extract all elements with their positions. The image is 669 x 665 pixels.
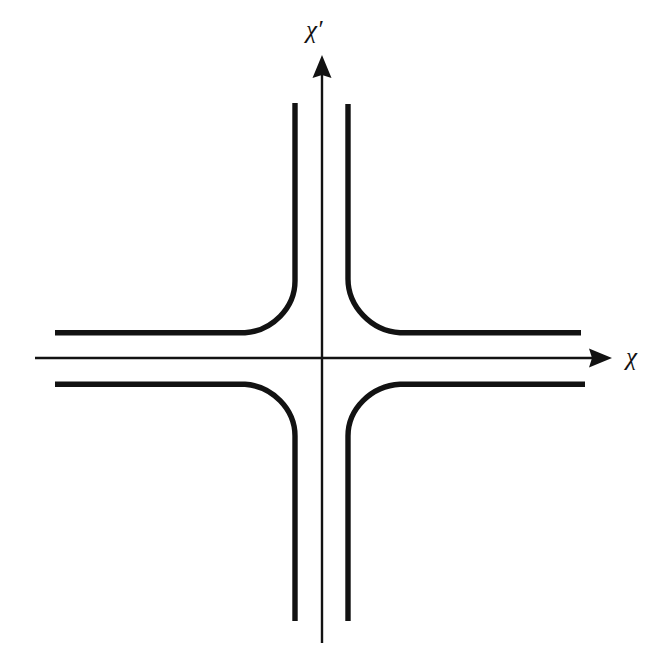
diagram-canvas	[0, 0, 669, 665]
figure-root: χ χ′	[0, 0, 669, 665]
y-axis-label: χ′	[306, 17, 322, 42]
x-axis-label: χ	[626, 344, 637, 369]
